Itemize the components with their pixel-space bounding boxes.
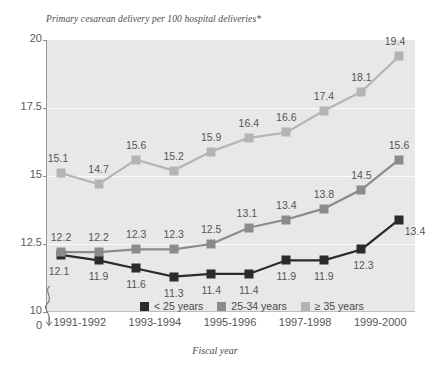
data-point-label: 11.4 bbox=[201, 284, 221, 296]
data-point-marker bbox=[94, 180, 103, 189]
legend-item[interactable]: < 25 years bbox=[140, 300, 203, 312]
data-point-label: 13.8 bbox=[314, 188, 334, 200]
y-tick-mark bbox=[43, 40, 47, 41]
data-point-label: 12.2 bbox=[88, 231, 108, 243]
y-tick-label: 20 bbox=[30, 32, 42, 44]
data-point-label: 19.4 bbox=[385, 35, 405, 47]
data-point-label: 18.1 bbox=[351, 71, 371, 83]
data-point-label: 15.6 bbox=[126, 139, 146, 151]
x-tick-label: 1993-1994 bbox=[129, 316, 182, 328]
data-point-label: 17.4 bbox=[314, 90, 334, 102]
legend-swatch-icon bbox=[140, 302, 149, 311]
data-point-marker bbox=[94, 248, 103, 257]
x-tick-label: 1997-1998 bbox=[279, 316, 332, 328]
x-axis-title: Fiscal year bbox=[0, 345, 430, 356]
x-tick-label: 1995-1996 bbox=[204, 316, 257, 328]
y-tick-mark bbox=[43, 108, 47, 109]
data-point-label: 15.9 bbox=[201, 131, 221, 143]
data-point-marker bbox=[282, 215, 291, 224]
data-point-label: 15.2 bbox=[163, 150, 183, 162]
data-point-marker bbox=[319, 204, 328, 213]
data-point-marker bbox=[132, 264, 141, 273]
data-point-marker bbox=[357, 185, 366, 194]
data-point-marker bbox=[244, 133, 253, 142]
y-tick-mark bbox=[43, 244, 47, 245]
data-point-marker bbox=[207, 240, 216, 249]
data-point-marker bbox=[395, 52, 404, 61]
data-point-label: 12.5 bbox=[201, 223, 221, 235]
data-point-label: 16.4 bbox=[239, 117, 259, 129]
legend-label: 25-34 years bbox=[231, 300, 286, 312]
y-tick-label: 12.5 bbox=[21, 236, 42, 248]
data-point-marker bbox=[57, 169, 66, 178]
x-tick-label: 1999-2000 bbox=[354, 316, 407, 328]
data-point-marker bbox=[357, 87, 366, 96]
data-point-marker bbox=[395, 215, 404, 224]
data-point-marker bbox=[282, 256, 291, 265]
data-point-marker bbox=[395, 155, 404, 164]
data-point-label: 11.6 bbox=[126, 278, 146, 290]
data-point-label: 12.3 bbox=[353, 259, 373, 271]
data-point-marker bbox=[207, 269, 216, 278]
data-point-label: 13.4 bbox=[276, 199, 296, 211]
data-point-marker bbox=[169, 166, 178, 175]
data-point-label: 12.1 bbox=[49, 265, 69, 277]
data-point-marker bbox=[169, 245, 178, 254]
y-tick-label: 15 bbox=[30, 168, 42, 180]
y-tick-label: 17.5 bbox=[21, 100, 42, 112]
data-point-label: 13.1 bbox=[237, 207, 257, 219]
x-tick-label: 1991-1992 bbox=[53, 316, 106, 328]
data-point-label: 12.3 bbox=[163, 228, 183, 240]
data-point-marker bbox=[319, 106, 328, 115]
data-point-marker bbox=[132, 155, 141, 164]
data-point-label: 12.3 bbox=[126, 228, 146, 240]
chart-figure: Primary cesarean delivery per 100 hospit… bbox=[0, 0, 430, 368]
data-point-label: 12.2 bbox=[51, 231, 71, 243]
data-point-marker bbox=[94, 256, 103, 265]
data-point-label: 14.5 bbox=[351, 169, 371, 181]
data-point-marker bbox=[57, 248, 66, 257]
data-point-marker bbox=[132, 245, 141, 254]
data-point-label: 11.9 bbox=[89, 270, 109, 282]
data-point-label: 15.6 bbox=[389, 139, 409, 151]
data-point-label: 14.7 bbox=[88, 163, 108, 175]
legend: < 25 years25-34 years≥ 35 years bbox=[140, 297, 364, 315]
data-point-label: 13.4 bbox=[405, 225, 425, 237]
data-point-marker bbox=[244, 223, 253, 232]
data-point-marker bbox=[357, 245, 366, 254]
data-point-label: 11.4 bbox=[239, 284, 259, 296]
y-tick-mark bbox=[43, 176, 47, 177]
data-point-label: 11.9 bbox=[314, 270, 334, 282]
legend-label: ≥ 35 years bbox=[315, 300, 364, 312]
legend-swatch-icon bbox=[217, 302, 226, 311]
data-point-marker bbox=[282, 128, 291, 137]
data-point-marker bbox=[207, 147, 216, 156]
legend-item[interactable]: ≥ 35 years bbox=[301, 300, 364, 312]
data-point-marker bbox=[244, 269, 253, 278]
gridline bbox=[47, 108, 415, 109]
data-point-label: 15.1 bbox=[48, 152, 68, 164]
data-point-marker bbox=[319, 256, 328, 265]
data-point-marker bbox=[169, 272, 178, 281]
legend-label: < 25 years bbox=[154, 300, 203, 312]
data-point-label: 11.9 bbox=[276, 270, 296, 282]
data-point-label: 16.6 bbox=[276, 111, 296, 123]
legend-item[interactable]: 25-34 years bbox=[217, 300, 286, 312]
legend-swatch-icon bbox=[301, 302, 310, 311]
chart-title: Primary cesarean delivery per 100 hospit… bbox=[46, 14, 261, 24]
